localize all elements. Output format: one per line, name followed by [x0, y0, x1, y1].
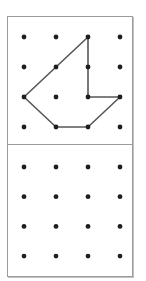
peg-dot	[54, 125, 59, 130]
worksheet-canvas	[0, 0, 146, 281]
peg-dot	[54, 95, 59, 100]
peg-dot[interactable]	[118, 224, 123, 229]
peg-dot	[22, 125, 27, 130]
peg-dot[interactable]	[118, 165, 123, 170]
geoboard-example-panel	[8, 17, 132, 144]
peg-dot[interactable]	[86, 224, 91, 229]
geoboard-copy-panel[interactable]	[8, 145, 132, 276]
peg-dot[interactable]	[22, 194, 27, 199]
peg-dot	[22, 95, 27, 100]
peg-dot[interactable]	[54, 254, 59, 259]
peg-dot[interactable]	[22, 165, 27, 170]
peg-dot[interactable]	[118, 254, 123, 259]
peg-dot[interactable]	[86, 165, 91, 170]
peg-dot	[86, 35, 91, 40]
empty-copy-grid[interactable]	[8, 145, 132, 276]
peg-dot[interactable]	[54, 224, 59, 229]
peg-dot	[118, 125, 123, 130]
peg-dot	[118, 95, 123, 100]
peg-dot	[22, 35, 27, 40]
example-shape-grid	[8, 17, 132, 144]
peg-dot[interactable]	[54, 165, 59, 170]
peg-dot	[118, 65, 123, 70]
peg-dot	[54, 35, 59, 40]
peg-dot[interactable]	[22, 254, 27, 259]
peg-dot	[86, 95, 91, 100]
peg-dot	[86, 125, 91, 130]
peg-dot[interactable]	[54, 194, 59, 199]
peg-dot	[86, 65, 91, 70]
peg-dot	[54, 65, 59, 70]
peg-dot	[118, 35, 123, 40]
peg-dot[interactable]	[86, 194, 91, 199]
peg-dot[interactable]	[22, 224, 27, 229]
shape-outline	[24, 37, 120, 127]
geoboard-frame	[7, 16, 133, 277]
peg-dot	[22, 65, 27, 70]
peg-dot[interactable]	[86, 254, 91, 259]
peg-dot[interactable]	[118, 194, 123, 199]
